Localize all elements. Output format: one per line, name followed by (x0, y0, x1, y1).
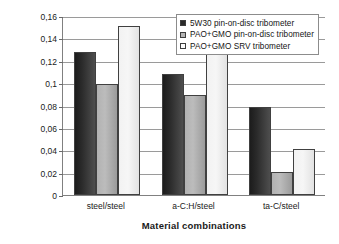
y-axis-tick-label: 0,02 (40, 169, 57, 179)
bar (293, 149, 315, 195)
y-axis-tick-label: 0,06 (40, 124, 57, 134)
y-axis-tick-label: 0,04 (40, 146, 57, 156)
legend-swatch-icon (180, 32, 186, 38)
x-axis-category-label: ta-C/steel (263, 201, 299, 211)
legend-swatch-icon (180, 43, 186, 49)
chart-legend: 5W30 pin-on-disc tribometerPAO+GMO pin-o… (176, 14, 319, 55)
y-axis-tick (59, 196, 63, 197)
x-axis-title: Material combinations (62, 220, 326, 231)
legend-item: PAO+GMO pin-on-disc tribometer (180, 29, 314, 40)
bar (271, 172, 293, 195)
bar (162, 74, 184, 195)
legend-label: PAO+GMO SRV tribometer (190, 42, 290, 51)
bar (206, 52, 228, 195)
legend-item: 5W30 pin-on-disc tribometer (180, 18, 314, 29)
bar (184, 95, 206, 195)
y-axis-tick-label: 0 (52, 191, 57, 201)
legend-label: 5W30 pin-on-disc tribometer (190, 19, 294, 28)
bar (74, 52, 96, 195)
legend-item: PAO+GMO SRV tribometer (180, 41, 314, 52)
y-axis-tick-label: 0,16 (40, 12, 57, 22)
y-axis-tick-label: 0,08 (40, 102, 57, 112)
x-axis-category-label: a-C:H/steel (172, 201, 215, 211)
y-axis-tick-label: 0,12 (40, 57, 57, 67)
y-axis-tick-label: 0,1 (45, 79, 57, 89)
x-axis-category-label: steel/steel (87, 201, 125, 211)
legend-swatch-icon (180, 20, 186, 26)
bar (249, 107, 271, 195)
chart-figure: Friction coefficient 00,020,040,060,080,… (0, 0, 339, 244)
y-axis-tick-label: 0,14 (40, 34, 57, 44)
bar (96, 84, 118, 195)
legend-label: PAO+GMO pin-on-disc tribometer (190, 30, 314, 39)
bar (118, 26, 140, 195)
